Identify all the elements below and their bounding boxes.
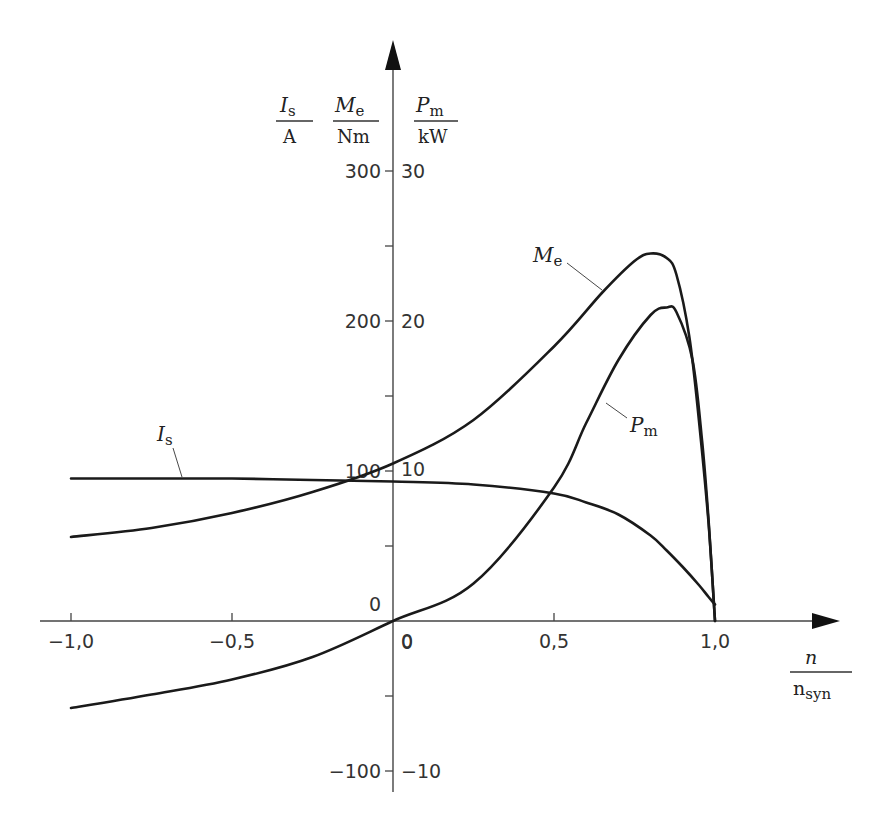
svg-text:Me: Me: [532, 243, 562, 270]
x-tick-label: 0,5: [539, 630, 569, 652]
y-left-tick-label: 200: [345, 310, 381, 332]
ylabel-pm: Pm kW: [414, 93, 458, 147]
x-tick-label: 1,0: [700, 630, 730, 652]
y-left-tick-label: −100: [329, 760, 381, 782]
y-right-tick-label: −10: [401, 760, 441, 782]
y-right-tick-label: 0: [401, 631, 413, 653]
y-right-tick-label: 10: [401, 458, 425, 480]
svg-text:Nm: Nm: [337, 126, 370, 147]
svg-text:Pm: Pm: [629, 413, 658, 440]
svg-text:n: n: [805, 646, 817, 668]
svg-text:kW: kW: [418, 126, 448, 147]
chart: −1,0−0,500,51,03002001000−1003020100−10 …: [0, 0, 890, 815]
y-left-tick-label: 0: [369, 593, 381, 615]
xlabel: n nsyn: [790, 646, 852, 703]
label-pm: Pm: [606, 403, 658, 440]
ylabel-me: Me Nm: [333, 93, 379, 147]
y-right-tick-label: 30: [401, 160, 425, 182]
svg-text:nsyn: nsyn: [793, 677, 831, 703]
x-tick-label: −0,5: [209, 630, 255, 652]
svg-text:A: A: [282, 126, 297, 147]
svg-text:Is: Is: [279, 93, 296, 120]
ylabel-is: Is A: [276, 93, 313, 147]
label-is: Is: [156, 422, 182, 477]
x-tick-label: −1,0: [48, 630, 94, 652]
y-right-tick-label: 20: [401, 310, 425, 332]
y-left-tick-label: 300: [345, 160, 381, 182]
label-me: Me: [532, 243, 602, 290]
svg-text:Pm: Pm: [415, 93, 444, 120]
y-axis-arrow-icon: [385, 40, 401, 70]
svg-text:Me: Me: [334, 93, 364, 120]
svg-text:Is: Is: [156, 422, 173, 449]
x-axis-arrow-icon: [812, 613, 840, 629]
